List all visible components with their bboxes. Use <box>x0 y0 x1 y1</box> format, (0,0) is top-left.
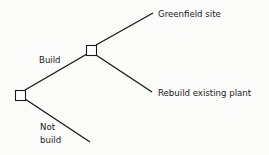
not-build-label-line2: build <box>40 135 61 145</box>
edge-rebuild <box>96 55 152 92</box>
build-label: Build <box>39 55 61 65</box>
edge-greenfield <box>96 13 153 45</box>
greenfield-site-label: Greenfield site <box>158 9 221 19</box>
rebuild-existing-plant-label: Rebuild existing plant <box>158 88 252 98</box>
not-build-label-line1: Not <box>40 122 56 132</box>
build-decision-node <box>87 46 97 56</box>
decision-tree-diagram: Build Not build Greenfield site Rebuild … <box>0 0 269 155</box>
root-decision-node <box>16 91 26 101</box>
